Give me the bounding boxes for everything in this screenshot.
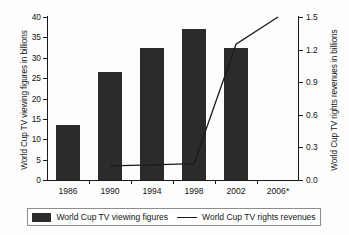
x-axis-label: 1994 — [142, 187, 161, 196]
y-axis-right-tick-label: 0.6 — [306, 111, 318, 119]
y-axis-right-tick — [299, 115, 303, 116]
chart-container: World Cup TV viewing figures in billions… — [0, 0, 349, 235]
y-axis-left-tick-label: 35 — [32, 33, 41, 41]
x-axis-label: 1990 — [100, 187, 119, 196]
x-axis-tick — [89, 180, 90, 184]
x-axis-label: 2002 — [226, 187, 245, 196]
y-axis-left-tick-label: 0 — [36, 176, 41, 184]
y-axis-right-tick-label: 0.9 — [306, 78, 318, 86]
legend-item-viewing-figures: World Cup TV viewing figures — [32, 213, 168, 222]
y-axis-left-tick-label: 30 — [32, 54, 41, 62]
x-axis-tick — [257, 180, 258, 184]
plot-area: 0510152025303540 0.00.30.60.91.21.5 1986… — [47, 17, 299, 180]
y-axis-right-tick-label: 0.3 — [306, 143, 318, 151]
y-axis-right-tick — [299, 180, 303, 181]
x-axis-tick — [215, 180, 216, 184]
x-axis-label: 2006* — [267, 187, 289, 196]
y-axis-right-tick — [299, 50, 303, 51]
y-axis-right-tick — [299, 147, 303, 148]
y-axis-left-tick-label: 40 — [32, 13, 41, 21]
y-axis-left-title: World Cup TV viewing figures in billions — [21, 15, 29, 185]
x-axis-label: 1998 — [184, 187, 203, 196]
y-axis-left-tick-label: 25 — [32, 74, 41, 82]
x-axis-label: 1986 — [58, 187, 77, 196]
y-axis-left-tick-label: 20 — [32, 94, 41, 102]
x-axis-tick — [173, 180, 174, 184]
y-axis-left-tick — [43, 180, 47, 181]
legend-line-icon — [177, 217, 197, 218]
legend-swatch-icon — [32, 213, 51, 222]
legend-label-rights-revenues: World Cup TV rights revenues — [202, 213, 316, 222]
y-axis-right-tick-label: 1.2 — [306, 45, 318, 53]
legend-item-rights-revenues: World Cup TV rights revenues — [177, 213, 316, 222]
x-axis-tick — [131, 180, 132, 184]
line-series-path — [110, 17, 278, 166]
line-series — [47, 17, 299, 180]
y-axis-right-title: World Cup TV rights revenues in billions — [331, 15, 339, 185]
legend-label-viewing-figures: World Cup TV viewing figures — [56, 213, 168, 222]
y-axis-right-tick-label: 0.0 — [306, 176, 318, 184]
y-axis-right-tick-label: 1.5 — [306, 13, 318, 21]
y-axis-right-tick — [299, 17, 303, 18]
chart-legend: World Cup TV viewing figures World Cup T… — [27, 208, 321, 226]
y-axis-left-tick-label: 5 — [36, 155, 41, 163]
y-axis-left-tick-label: 15 — [32, 115, 41, 123]
y-axis-left-tick-label: 10 — [32, 135, 41, 143]
y-axis-right-tick — [299, 82, 303, 83]
